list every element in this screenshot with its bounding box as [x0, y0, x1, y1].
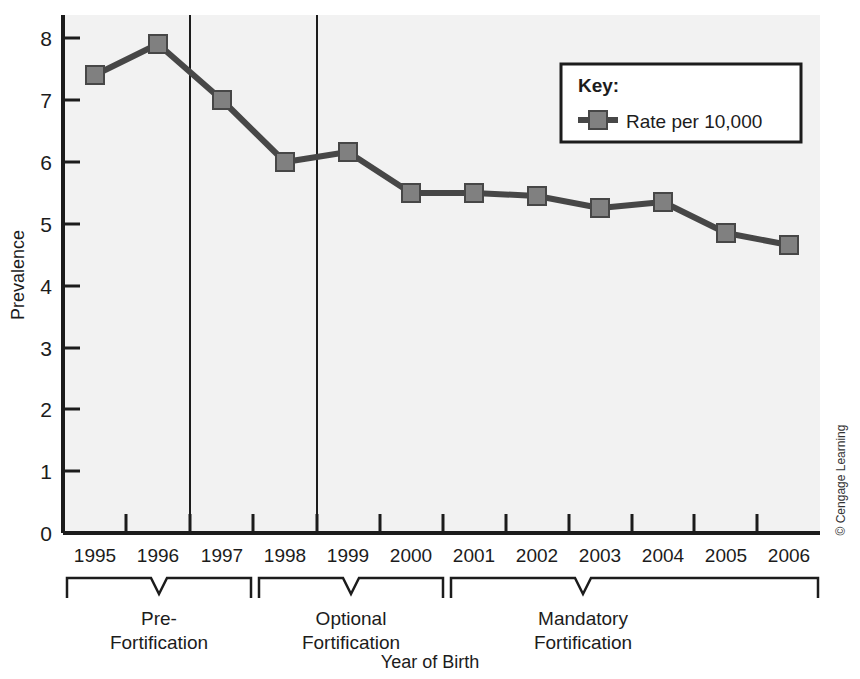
bracket-label-line1: Pre-: [141, 608, 177, 629]
x-tick-label: 1998: [264, 545, 306, 566]
x-tick-label: 2001: [453, 545, 495, 566]
y-axis-title: Prevalence: [8, 230, 28, 320]
bracket-optional-fortification: Optional Fortification: [259, 578, 443, 653]
y-tick-label: 3: [40, 337, 52, 360]
y-tick-label: 5: [40, 213, 52, 236]
x-tick-label: 2003: [579, 545, 621, 566]
x-tick-label: 2004: [642, 545, 685, 566]
y-tick-labels: 8 7 6 5 4 3 2 1 0: [40, 27, 52, 545]
data-point-marker: [213, 91, 231, 109]
data-point-marker: [591, 199, 609, 217]
legend-title: Key:: [578, 75, 619, 96]
data-point-marker: [149, 35, 167, 53]
credit-text: © Cengage Learning: [834, 425, 848, 536]
bracket-label-line2: Fortification: [110, 632, 208, 653]
bracket-pre-fortification: Pre- Fortification: [67, 578, 251, 653]
data-point-marker: [780, 236, 798, 254]
y-tick-label: 8: [40, 27, 52, 50]
data-point-marker: [276, 153, 294, 171]
x-tick-label: 1997: [201, 545, 243, 566]
x-tick-label: 2005: [705, 545, 747, 566]
y-tick-label: 2: [40, 398, 52, 421]
y-tick-label: 6: [40, 151, 52, 174]
bracket-mandatory-fortification: Mandatory Fortification: [451, 578, 818, 653]
y-tick-label: 1: [40, 460, 52, 483]
data-point-marker: [86, 66, 104, 84]
prevalence-line-chart: 8 7 6 5 4 3 2 1 0 Prevalence: [0, 0, 860, 679]
bracket-shape: [67, 578, 251, 598]
y-tick-label: 4: [40, 275, 52, 298]
data-point-marker: [402, 184, 420, 202]
y-tick-label: 7: [40, 89, 52, 112]
chart-figure: 8 7 6 5 4 3 2 1 0 Prevalence: [0, 0, 860, 679]
y-tick-label: 0: [40, 522, 52, 545]
data-point-marker: [339, 143, 357, 161]
x-tick-label: 2006: [768, 545, 810, 566]
x-axis-title: Year of Birth: [381, 652, 479, 672]
bracket-shape: [259, 578, 443, 598]
data-point-marker: [654, 193, 672, 211]
bracket-label-line2: Fortification: [302, 632, 400, 653]
data-point-marker: [465, 184, 483, 202]
x-tick-label: 1995: [74, 545, 116, 566]
legend-box[interactable]: Key: Rate per 10,000: [561, 64, 801, 142]
data-point-marker: [528, 187, 546, 205]
bracket-label-line1: Optional: [316, 608, 387, 629]
x-tick-label: 1999: [327, 545, 369, 566]
data-point-marker: [717, 224, 735, 242]
bracket-shape: [451, 578, 818, 598]
x-tick-labels: 1995 1996 1997 1998 1999 2000 2001 2002 …: [74, 545, 810, 566]
legend-entry-label: Rate per 10,000: [626, 111, 762, 132]
x-tick-label: 2002: [516, 545, 558, 566]
bracket-label-line2: Fortification: [534, 632, 632, 653]
x-tick-label: 1996: [137, 545, 179, 566]
bracket-label-line1: Mandatory: [538, 608, 628, 629]
x-tick-label: 2000: [390, 545, 432, 566]
